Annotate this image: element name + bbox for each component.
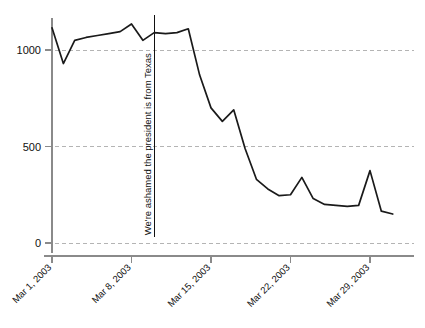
y-tick-label-1000: 1000 (17, 44, 41, 56)
y-tick-label-0: 0 (35, 237, 41, 249)
line-chart: 05001000 Mar 1, 2003Mar 8, 2003Mar 15, 2… (0, 0, 425, 328)
annotation-label-0: We're ashamed the president is from Texa… (142, 53, 153, 235)
chart-canvas: 05001000 Mar 1, 2003Mar 8, 2003Mar 15, 2… (0, 0, 425, 328)
y-tick-label-500: 500 (23, 141, 41, 153)
